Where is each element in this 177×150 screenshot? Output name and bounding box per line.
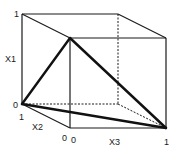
x3-max-label: 1 (164, 137, 169, 147)
x3-axis-label: X3 (109, 137, 120, 147)
x2-axis-label: X2 (32, 122, 43, 132)
edge-top-right-diagonal (118, 14, 166, 38)
triangle-edge-origin-to-peak (22, 38, 70, 104)
x2-max-label: 1 (19, 112, 24, 122)
cube-visible-edges (22, 14, 166, 128)
x1-max-label: 1 (14, 9, 19, 19)
axis-labels: 1 X1 0 1 X2 0 0 X3 1 (5, 9, 169, 147)
cube-hidden-edges (22, 14, 166, 128)
x1-min-label: 0 (13, 100, 18, 110)
unit-cube-diagram: 1 X1 0 1 X2 0 0 X3 1 (0, 0, 177, 150)
edge-top-left-diagonal (22, 14, 70, 38)
x3-min-label: 0 (71, 135, 76, 145)
x2-min-label: 0 (62, 133, 67, 143)
x1-axis-label: X1 (5, 54, 16, 64)
